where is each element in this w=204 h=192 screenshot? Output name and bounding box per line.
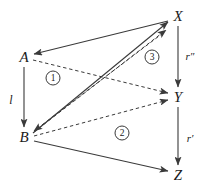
node-label-a: A: [19, 50, 28, 65]
edge-label-r-double-prime: r″: [186, 51, 195, 62]
edge-label-r-prime: r′: [187, 133, 194, 144]
region-label-two: 2: [115, 126, 130, 141]
edge-b-to-z: [34, 141, 168, 171]
edge-label-l: l: [9, 94, 12, 106]
edge-x-to-a: [34, 21, 168, 54]
edge-b-to-y-dashed: [34, 100, 168, 136]
node-label-z: Z: [174, 168, 182, 183]
commutative-diagram: A B X Y Z l r″ r′ 1 2 3: [0, 0, 204, 192]
node-label-b: B: [19, 130, 28, 145]
node-label-y: Y: [174, 90, 182, 105]
node-label-x: X: [173, 9, 182, 24]
region-label-one: 1: [46, 71, 61, 86]
region-label-three: 3: [145, 50, 160, 65]
